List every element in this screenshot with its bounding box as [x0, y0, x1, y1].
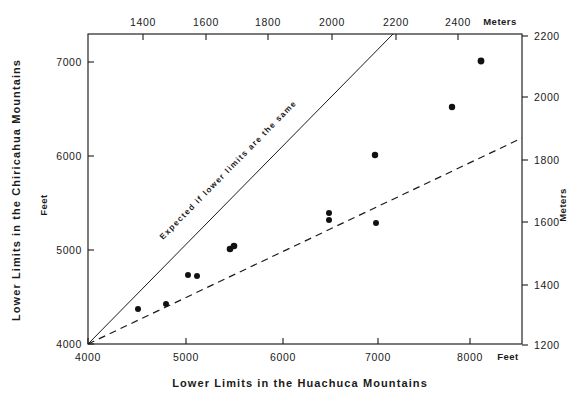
left-tick-label-1: 5000: [56, 244, 82, 256]
plot-frame: [88, 34, 522, 344]
right-axis: 2200 2000 1800 1600 1400 1200 Meters: [522, 30, 568, 351]
left-tick-label-0: 4000: [56, 338, 82, 350]
data-point: [478, 58, 485, 65]
data-point: [326, 210, 332, 216]
top-tick-label-2: 1800: [255, 16, 281, 28]
right-tick-label-2: 1800: [534, 154, 560, 166]
data-point: [326, 217, 332, 223]
data-point: [449, 104, 455, 110]
plot-svg: 4000 5000 6000 7000 8000 Feet Lower Limi…: [0, 0, 585, 400]
right-tick-label-1: 2000: [534, 91, 560, 103]
bottom-tick-label-0: 4000: [75, 351, 101, 363]
right-tick-label-4: 1400: [534, 279, 560, 291]
bottom-axis: 4000 5000 6000 7000 8000 Feet Lower Limi…: [75, 338, 519, 389]
left-axis-unit: Feet: [38, 194, 49, 216]
top-tick-label-0: 1400: [130, 16, 156, 28]
left-axis: 4000 5000 6000 7000 Feet Lower Limits in…: [10, 56, 94, 350]
bottom-tick-label-3: 7000: [365, 351, 391, 363]
data-point: [373, 220, 379, 226]
top-axis: 1400 1600 1800 2000 2200 2400 Meters: [130, 16, 517, 40]
top-tick-label-5: 2400: [445, 16, 471, 28]
scatter-plot-figure: 4000 5000 6000 7000 8000 Feet Lower Limi…: [0, 0, 585, 400]
data-point-series: [135, 58, 484, 312]
identity-line-annotation: Expected if lower limits are the same: [158, 99, 299, 242]
bottom-tick-label-2: 6000: [270, 351, 296, 363]
top-tick-label-4: 2200: [383, 16, 409, 28]
top-tick-label-1: 1600: [193, 16, 219, 28]
left-tick-label-2: 6000: [56, 150, 82, 162]
data-point: [135, 306, 141, 312]
right-tick-label-0: 2200: [534, 30, 560, 42]
bottom-tick-label-4: 8000: [457, 351, 483, 363]
data-point: [163, 301, 169, 307]
top-tick-label-3: 2000: [319, 16, 345, 28]
bottom-tick-label-1: 5000: [173, 351, 199, 363]
identity-line: [88, 34, 393, 344]
trend-line: [88, 138, 522, 344]
data-point: [194, 273, 200, 279]
data-point: [185, 272, 191, 278]
right-tick-label-5: 1200: [534, 339, 560, 351]
data-point: [231, 243, 238, 250]
left-axis-title: Lower Limits in the Chiricahua Mountains: [10, 59, 22, 321]
bottom-axis-unit: Feet: [497, 351, 519, 362]
right-tick-label-3: 1600: [534, 216, 560, 228]
data-point: [372, 152, 378, 158]
left-tick-label-3: 7000: [56, 56, 82, 68]
top-axis-unit: Meters: [483, 16, 517, 27]
right-axis-unit: Meters: [557, 188, 568, 222]
bottom-axis-title: Lower Limits in the Huachuca Mountains: [172, 377, 428, 389]
